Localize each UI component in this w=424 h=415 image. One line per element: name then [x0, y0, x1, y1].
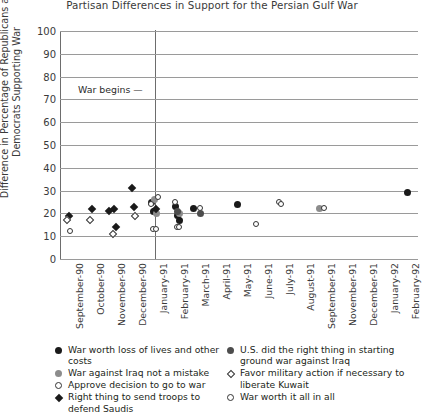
x-tick-august-91: August-91: [296, 262, 308, 338]
legend-marker-icon: [55, 382, 62, 389]
legend-column-right: U.S. did the right thing in starting gro…: [224, 344, 424, 403]
legend-item: Approve decision to go to war: [52, 379, 228, 390]
chart-legend: War worth loss of lives and other costsW…: [52, 344, 424, 414]
legend-item: War worth it all in all: [224, 391, 424, 402]
x-tick-may-91: May-91: [233, 262, 245, 338]
y-tick-20: 20: [28, 208, 56, 219]
gridline-70: [60, 99, 418, 100]
data-point: [253, 221, 259, 227]
y-tick-60: 60: [28, 117, 56, 128]
data-point: [174, 208, 181, 215]
y-tick-80: 80: [28, 71, 56, 82]
legend-label: War against Iraq not a mistake: [68, 367, 209, 378]
data-point: [155, 194, 161, 200]
data-point: [321, 205, 327, 211]
gridline-0: [60, 259, 418, 260]
legend-marker-icon: [227, 347, 234, 354]
legend-item: Favor military action if necessary to li…: [224, 367, 424, 390]
legend-marker-icon: [55, 347, 62, 354]
legend-label: Right thing to send troops to defend Sau…: [68, 391, 200, 413]
x-tick-april-91: April-91: [212, 262, 224, 338]
legend-label: U.S. did the right thing in starting gro…: [240, 344, 394, 366]
legend-label: War worth it all in all: [240, 391, 335, 402]
x-tick-february-91: February-91: [170, 262, 182, 338]
y-tick-100: 100: [28, 26, 56, 37]
data-point: [190, 205, 197, 212]
legend-label: War worth loss of lives and other costs: [68, 344, 219, 366]
x-axis-tick-labels: September-90October-90November-90Decembe…: [60, 262, 418, 340]
data-point: [87, 205, 95, 213]
y-tick-10: 10: [28, 231, 56, 242]
data-point: [86, 216, 94, 224]
x-tick-july-91: July-91: [275, 262, 287, 338]
x-tick-february-92: February-92: [401, 262, 413, 338]
data-point: [176, 217, 183, 224]
legend-label: Approve decision to go to war: [68, 379, 206, 390]
legend-item: War against Iraq not a mistake: [52, 367, 228, 378]
data-point: [404, 189, 411, 196]
x-tick-november-91: November-91: [338, 262, 350, 338]
data-point: [197, 210, 204, 217]
legend-marker-icon: [226, 370, 234, 378]
chart-title: Partisan Differences in Support for the …: [0, 0, 424, 11]
x-tick-june-91: June-91: [254, 262, 266, 338]
legend-label: Favor military action if necessary to li…: [240, 367, 404, 389]
x-tick-september-91: September-91: [317, 262, 329, 338]
x-tick-december-91: December-91: [359, 262, 371, 338]
war-begins-annotation: War begins —: [78, 84, 143, 95]
gridline-60: [60, 122, 418, 123]
legend-item: Right thing to send troops to defend Sau…: [52, 391, 228, 414]
data-point: [153, 226, 159, 232]
gridline-80: [60, 77, 418, 78]
y-axis-title: Difference in Percentage of Republicans …: [0, 0, 23, 207]
gridline-90: [60, 54, 418, 55]
y-tick-30: 30: [28, 185, 56, 196]
data-point: [278, 201, 284, 207]
legend-marker-icon: [55, 370, 62, 377]
gridline-30: [60, 191, 418, 192]
gridline-50: [60, 145, 418, 146]
data-point: [129, 202, 137, 210]
x-tick-november-90: November-90: [107, 262, 119, 338]
x-tick-october-90: October-90: [86, 262, 98, 338]
legend-marker-icon: [227, 394, 234, 401]
x-tick-january-91: January-91: [149, 262, 161, 338]
legend-marker-icon: [54, 393, 62, 401]
y-tick-50: 50: [28, 140, 56, 151]
y-tick-0: 0: [28, 254, 56, 265]
y-tick-70: 70: [28, 94, 56, 105]
x-tick-march-91: March-91: [191, 262, 203, 338]
legend-column-left: War worth loss of lives and other costsW…: [52, 344, 228, 414]
plot-area: [60, 31, 418, 259]
legend-item: U.S. did the right thing in starting gro…: [224, 344, 424, 367]
data-point: [172, 199, 178, 205]
y-axis-tick-labels: 0102030405060708090100: [24, 31, 56, 260]
gridline-100: [60, 31, 418, 32]
x-tick-september-90: September-90: [65, 262, 77, 338]
x-tick-december-90: December-90: [128, 262, 140, 338]
y-tick-40: 40: [28, 162, 56, 173]
data-point: [176, 224, 182, 230]
data-point: [234, 201, 241, 208]
data-point: [67, 228, 73, 234]
legend-item: War worth loss of lives and other costs: [52, 344, 228, 367]
y-tick-90: 90: [28, 48, 56, 59]
x-tick-january-92: January-92: [380, 262, 392, 338]
gridline-40: [60, 168, 418, 169]
